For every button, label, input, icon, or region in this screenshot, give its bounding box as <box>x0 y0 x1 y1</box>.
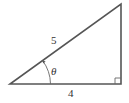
angle-label: θ <box>51 65 57 77</box>
right-angle-marker <box>115 78 121 84</box>
angle-arc <box>43 61 51 85</box>
triangle <box>10 4 121 84</box>
right-triangle-diagram: 5 θ 4 <box>0 0 129 103</box>
hypotenuse-label: 5 <box>51 34 57 46</box>
base-label: 4 <box>68 87 74 99</box>
